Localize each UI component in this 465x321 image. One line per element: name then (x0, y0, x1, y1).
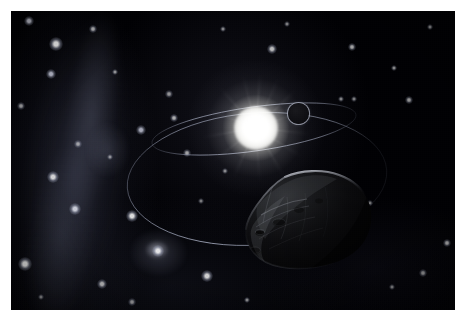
milky-way-band (11, 11, 173, 310)
star (220, 26, 226, 32)
star (89, 25, 97, 33)
starfield-named-stars (11, 11, 455, 310)
star-halo (186, 58, 326, 198)
star (126, 210, 138, 222)
asteroid (227, 163, 377, 283)
star (244, 297, 251, 304)
starfield-fine-layer-1 (11, 11, 455, 310)
asteroid-surface-detail (227, 163, 377, 283)
globular-star-cluster (119, 217, 205, 291)
star (18, 257, 32, 271)
star (443, 239, 452, 248)
starfield-fine-layer-2 (11, 11, 455, 310)
film-grain-overlay (11, 11, 455, 310)
asteroid-rim-light-bottom (246, 229, 333, 268)
star (389, 284, 395, 290)
star (170, 114, 179, 123)
star (427, 24, 434, 31)
asteroid-body (246, 171, 371, 268)
star (183, 149, 191, 157)
orbit-ellipse (149, 93, 359, 165)
asteroid-rim-light (285, 171, 368, 201)
star (338, 96, 344, 102)
star (419, 269, 426, 276)
star (198, 198, 204, 204)
vignette-overlay (11, 11, 455, 310)
star (97, 279, 107, 289)
star (152, 245, 163, 256)
star (391, 65, 398, 72)
central-star (234, 106, 278, 150)
star (49, 37, 63, 51)
nebular-haze (71, 107, 145, 193)
star (351, 96, 357, 102)
star (112, 69, 119, 76)
star (348, 43, 356, 51)
star (128, 298, 136, 306)
star (38, 294, 45, 301)
star (284, 21, 290, 27)
star (201, 270, 213, 282)
star-diffraction-glow (193, 65, 319, 191)
orbit-paths (11, 11, 455, 310)
orbiting-planet (288, 103, 309, 124)
star (24, 16, 34, 26)
star (47, 171, 59, 183)
star (405, 96, 413, 104)
star (267, 44, 276, 53)
star (367, 200, 373, 206)
star (74, 140, 81, 147)
star (46, 69, 57, 80)
orbit-ellipse (123, 104, 392, 254)
asteroid-rim-light-left (246, 177, 285, 229)
space-illustration-canvas (11, 11, 455, 310)
star (136, 125, 146, 135)
photo-frame (0, 0, 465, 321)
star (69, 203, 80, 214)
star (165, 90, 172, 97)
star (107, 154, 113, 160)
star (17, 102, 25, 110)
star (222, 168, 229, 175)
deep-space-background (11, 11, 455, 310)
